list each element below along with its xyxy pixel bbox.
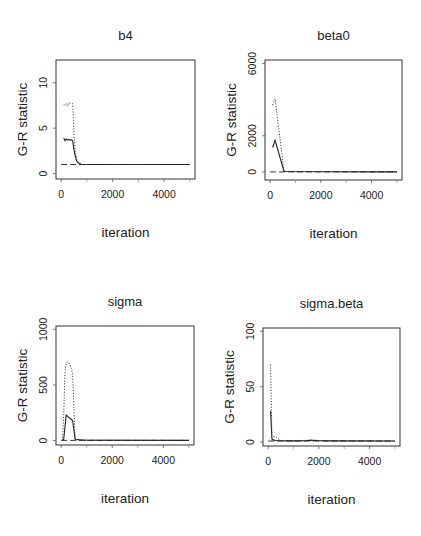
x-axis-label: iteration: [101, 225, 149, 240]
panel-title: beta0: [317, 28, 350, 43]
y-tick-label: 100: [244, 322, 256, 340]
x-tick-label: 4000: [152, 188, 176, 200]
x-axis-label: iteration: [307, 492, 355, 507]
y-tick-label: 500: [37, 376, 49, 394]
x-tick-label: 4000: [152, 454, 176, 466]
series-upper-quantile-line: [271, 365, 395, 441]
plot-frame: [56, 326, 194, 445]
y-axis-label: G-R statistic: [224, 83, 239, 157]
plot-frame: [265, 60, 402, 180]
panel-b4: b40200040000510G-R statisticiteration: [15, 28, 195, 240]
y-tick-label: 0: [37, 170, 49, 176]
y-tick-label: 0: [244, 439, 256, 445]
y-tick-label: 50: [244, 381, 256, 393]
y-tick-label: 0: [246, 169, 258, 175]
y-tick-label: 5: [37, 125, 49, 131]
y-tick-label: 0: [37, 437, 49, 443]
x-tick-label: 4000: [358, 455, 382, 467]
series-median-line: [271, 411, 395, 441]
x-axis-label: iteration: [101, 491, 149, 506]
x-tick-label: 4000: [360, 189, 384, 201]
panel-title: sigma.beta: [300, 296, 364, 311]
series-median-line: [62, 415, 188, 440]
panel-sigma: sigma02000400005001000G-R statisticitera…: [15, 294, 194, 506]
y-tick-label: 6000: [246, 52, 258, 76]
series-upper-quantile-line: [62, 362, 188, 441]
x-tick-label: 2000: [309, 189, 333, 201]
y-tick-label: 10: [37, 77, 49, 89]
x-axis-label: iteration: [309, 226, 357, 241]
x-tick-label: 0: [58, 454, 64, 466]
x-tick-label: 0: [267, 189, 273, 201]
plot-frame: [263, 328, 400, 446]
panel-title: sigma: [108, 294, 143, 309]
series-upper-quantile-line: [273, 99, 397, 172]
y-axis-label: G-R statistic: [15, 349, 30, 423]
panel-beta0: beta0020004000020006000G-R statisticiter…: [224, 28, 402, 241]
x-tick-label: 2000: [101, 454, 125, 466]
gelman-rubin-figure: b40200040000510G-R statisticiterationbet…: [0, 0, 421, 536]
series-upper-quantile-line: [64, 103, 190, 165]
y-tick-label: 1000: [37, 317, 49, 341]
x-tick-label: 2000: [101, 188, 125, 200]
y-axis-label: G-R statistic: [222, 350, 237, 424]
panel-title: b4: [118, 28, 132, 43]
x-tick-label: 0: [58, 188, 64, 200]
x-tick-label: 2000: [307, 455, 331, 467]
y-tick-label: 2000: [246, 124, 258, 148]
panel-sigma-beta: sigma.beta020004000050100G-R statisticit…: [222, 296, 400, 507]
series-median-line: [64, 138, 190, 164]
series-median-line: [273, 140, 397, 172]
y-axis-label: G-R statistic: [15, 83, 30, 157]
x-tick-label: 0: [265, 455, 271, 467]
